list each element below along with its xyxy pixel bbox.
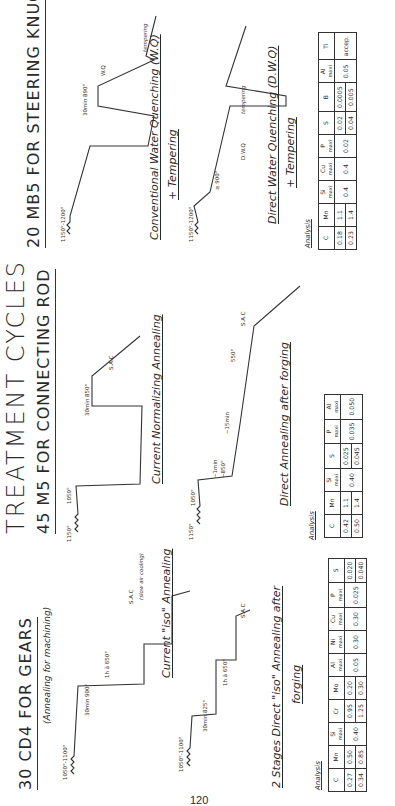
label-sac-4: S.A.C <box>240 312 246 327</box>
cell: 0.035 <box>341 419 363 444</box>
cell: 0.40 <box>341 469 363 492</box>
col-c: C <box>319 227 335 250</box>
cell: 1.1 <box>341 492 352 515</box>
cell: 0.025 <box>341 444 352 469</box>
analysis-table-45m5: C Mn Simaxi S Pmaxi Almaxi 0.42 1.1 0.40… <box>324 394 363 538</box>
analysis-label: Analysis <box>304 219 312 248</box>
cycle-caption-direct-wq-line2: + Tempering <box>284 117 297 188</box>
cell: 0.95 <box>345 700 356 723</box>
label-hold2-2: 1h à 650° <box>222 659 228 686</box>
label-hold-900: ≥ 900° <box>214 170 220 190</box>
cell: 0.85 <box>356 746 367 769</box>
col-p: Pmaxi <box>329 583 345 608</box>
cell: 1.1 <box>335 204 346 227</box>
label-forging-temp: 1050°-1100° <box>62 745 68 780</box>
cell: 0.30 <box>345 608 367 631</box>
cell: 0.0005 <box>335 83 346 112</box>
cell: accep. <box>335 33 357 60</box>
label-slow-air-cooling: (slow air cooling) <box>138 553 144 600</box>
label-sac-2: S.A.C <box>240 604 246 619</box>
cell: 0.42 <box>341 515 352 538</box>
label-hold-850: 30min 850° <box>84 384 90 416</box>
label-step-15min: ~15min <box>224 412 230 434</box>
cell: 0.4 <box>335 181 357 204</box>
section-subheading-annealing: (Annealing for machining) <box>42 607 52 724</box>
col-s: S <box>325 444 341 469</box>
col-c: C <box>329 769 345 792</box>
table-header-row: C Mn Simaxi S Pmaxi Almaxi <box>325 394 341 537</box>
cell: 0.30 <box>345 631 367 654</box>
col-s: S <box>319 112 335 135</box>
analysis-table-20mb5: C Mn Simaxi Cumaxi Pmaxi S B Almaxi Ti 0… <box>318 32 357 250</box>
cell: 0.045 <box>352 444 363 469</box>
label-reheat-1050: 1050° <box>66 487 72 504</box>
cycle-caption-conventional-wq-line2: + Tempering <box>166 129 179 200</box>
table-header-row: C Mn Simaxi Cumaxi Pmaxi S B Almaxi Ti <box>319 33 335 250</box>
label-hold-890: 30min 890° <box>82 84 88 116</box>
table-row: 0.18 1.1 0.4 0.4 0.02 0.02 0.0005 0.05 a… <box>335 33 346 250</box>
page-number: 120 <box>190 794 208 806</box>
cycle-caption-2stage-line1: 2 Stages Direct "iso" Annealing after <box>270 586 283 788</box>
label-hold1-2: 30min 825° <box>202 700 208 732</box>
cell: 0.34 <box>356 769 367 792</box>
cycle-chart-2stage-iso <box>190 546 280 796</box>
table-row: 0.27 0.50 0.40 0.95 0.20 0.05 0.30 0.30 … <box>345 558 356 791</box>
label-tempering-2: tempering <box>240 85 246 114</box>
label-reheat-1050-2: 1050° <box>190 489 196 506</box>
cell: 0.27 <box>345 769 356 792</box>
col-p: Pmaxi <box>325 419 341 444</box>
page-title: TREATMENT CYCLES <box>2 260 30 534</box>
analysis-label: Analysis <box>314 761 322 790</box>
cell: 0.050 <box>341 394 363 419</box>
col-mn: Mn <box>329 746 345 769</box>
col-ni: Nimaxi <box>329 631 345 654</box>
cycle-caption-conventional-wq: Conventional Water Quenching (W.Q) <box>148 34 161 240</box>
label-hold2: 1h à 650° <box>104 651 110 678</box>
cell: 0.05 <box>335 60 357 83</box>
cell: 0.040 <box>356 558 367 583</box>
cell: 0.20 <box>345 677 356 700</box>
label-forging-1150: 1150° <box>66 525 72 542</box>
col-c: C <box>325 515 341 538</box>
cycle-chart-iso-annealing <box>60 546 170 796</box>
cell: 0.30 <box>356 677 367 700</box>
col-si: Simaxi <box>329 723 345 746</box>
label-forging-1150-1200: 1150°-1200° <box>60 207 66 242</box>
label-sac-3: S.A.C <box>108 356 114 371</box>
cell: 0.05 <box>345 654 367 677</box>
cell: 0.23 <box>346 227 357 250</box>
col-b: B <box>319 83 335 112</box>
cell: 0.50 <box>352 515 363 538</box>
col-mo: Mo <box>329 677 345 700</box>
cell: 0.40 <box>345 723 367 746</box>
cycle-chart-direct-annealing <box>180 286 290 546</box>
col-mn: Mn <box>319 204 335 227</box>
col-s: S <box>329 558 345 583</box>
table-row: 0.42 1.1 0.40 0.025 0.035 0.050 <box>341 394 352 537</box>
label-forging-temp-2: 1050°-1100° <box>178 737 184 772</box>
analysis-label: Analysis <box>308 511 316 540</box>
label-wq: W.Q <box>100 65 106 76</box>
cell: 0.005 <box>346 83 357 112</box>
cycle-caption-direct-annealing: Direct Annealing after forging <box>278 342 291 506</box>
col-si: Simaxi <box>319 181 335 204</box>
section-heading-30cd4: 30 CD4 FOR GEARS <box>16 617 38 790</box>
col-p: Pmaxi <box>319 135 335 158</box>
col-cu: Cumaxi <box>329 608 345 631</box>
label-step-850: ~850° <box>220 460 226 478</box>
cell: 1.25 <box>356 700 367 723</box>
cell: 0.02 <box>335 112 346 135</box>
cell: 0.18 <box>335 227 346 250</box>
cycle-chart-conventional-wq <box>60 6 180 256</box>
col-si: Simaxi <box>325 469 341 492</box>
table-header-row: C Mn Simaxi Cr Mo Almaxi Nimaxi Cumaxi P… <box>329 558 345 791</box>
col-cr: Cr <box>329 700 345 723</box>
label-forging-1150-2: 1150° <box>188 523 194 540</box>
label-step-1min: ~1min <box>212 460 218 478</box>
cycle-caption-normalizing: Current Normalizing Annealing <box>150 314 163 484</box>
cycle-caption-iso: Current "iso" Annealing <box>160 549 173 678</box>
cell: 0.04 <box>346 112 357 135</box>
label-sac: S.A.C <box>128 590 134 605</box>
label-dwq: D.W.Q <box>240 143 246 160</box>
